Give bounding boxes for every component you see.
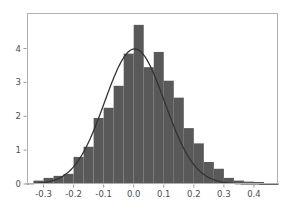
histogram-bar: [104, 108, 114, 184]
chart-figure: -0.3-0.2-0.10.00.10.20.30.4 01234: [0, 0, 303, 214]
x-tick-label: -0.2: [65, 189, 82, 199]
histogram-bar: [114, 86, 124, 184]
x-tick-label: 0.2: [187, 189, 201, 199]
x-tick-label: -0.3: [35, 189, 52, 199]
y-tick-label: 3: [16, 77, 21, 87]
x-tick-label: 0.0: [127, 189, 141, 199]
x-tick-label: 0.1: [157, 189, 171, 199]
histogram-bar: [194, 143, 204, 184]
histogram-bar: [204, 162, 214, 184]
histogram-bar: [174, 98, 184, 184]
histogram-chart: -0.3-0.2-0.10.00.10.20.30.4 01234: [0, 0, 303, 214]
x-tick-label: 0.4: [247, 189, 261, 199]
histogram-bar: [84, 147, 94, 184]
histogram-bar: [144, 67, 154, 184]
x-tick-label: 0.3: [217, 189, 231, 199]
y-tick-label: 1: [16, 145, 21, 155]
x-tick-label: -0.1: [95, 189, 112, 199]
y-tick-label: 4: [16, 44, 21, 54]
histogram-bar: [184, 128, 194, 184]
histogram-bar: [154, 52, 164, 184]
y-tick-label: 0: [16, 179, 21, 189]
histogram-bar: [164, 81, 174, 184]
y-tick-label: 2: [16, 111, 21, 121]
histogram-bar: [124, 54, 134, 184]
